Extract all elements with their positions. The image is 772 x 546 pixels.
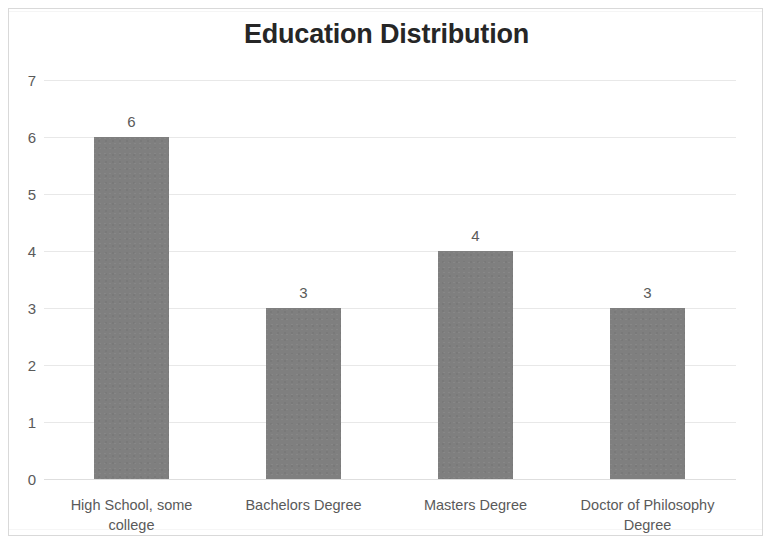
bar-value-label: 3	[610, 284, 685, 301]
chart-title: Education Distribution	[9, 19, 764, 50]
y-axis-tick-label: 5	[28, 186, 36, 203]
x-axis-baseline	[44, 479, 736, 480]
bar-group[interactable]: 3	[610, 80, 685, 479]
bar-value-label: 6	[94, 113, 169, 130]
bar-group[interactable]: 4	[438, 80, 513, 479]
y-axis-tick-label: 1	[28, 414, 36, 431]
x-axis-category-label: High School, some college	[63, 495, 200, 535]
x-axis-category-label: Masters Degree	[407, 495, 544, 515]
x-axis-category-label: Bachelors Degree	[235, 495, 372, 515]
plot-area: 6 3 4 3	[44, 80, 736, 479]
y-axis-tick-label: 7	[28, 72, 36, 89]
bar[interactable]	[610, 308, 685, 479]
y-axis-tick-label: 3	[28, 300, 36, 317]
x-axis-category-label: Doctor of Philosophy Degree	[579, 495, 716, 535]
bar-value-label: 3	[266, 284, 341, 301]
bars-layer: 6 3 4 3	[44, 80, 736, 479]
scan-artifact-line	[9, 11, 762, 12]
y-axis-tick-label: 6	[28, 129, 36, 146]
y-axis-tick-label: 0	[28, 471, 36, 488]
bar[interactable]	[266, 308, 341, 479]
y-axis-tick-label: 4	[28, 243, 36, 260]
bar-group[interactable]: 3	[266, 80, 341, 479]
chart-container: Education Distribution 7 6 5 4 3 2 1 0 6…	[8, 8, 763, 536]
y-axis-tick-labels: 7 6 5 4 3 2 1 0	[9, 80, 42, 479]
x-axis-category-labels: High School, some college Bachelors Degr…	[44, 487, 736, 545]
bar-value-label: 4	[438, 227, 513, 244]
bar-group[interactable]: 6	[94, 80, 169, 479]
bar[interactable]	[94, 137, 169, 479]
bar[interactable]	[438, 251, 513, 479]
y-axis-tick-label: 2	[28, 357, 36, 374]
